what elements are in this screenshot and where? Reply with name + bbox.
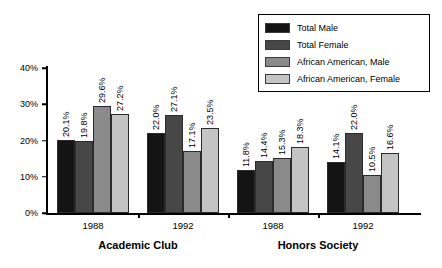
bar: 20.1% [57, 140, 75, 213]
legend-label-total-female: Total Female [297, 40, 349, 50]
bar-value-label: 29.6% [98, 77, 107, 103]
x-axis-group-tick [228, 213, 230, 218]
bar-value-label: 10.5% [368, 146, 377, 172]
legend-swatch-african-american-male [265, 57, 290, 67]
bar-value-label: 19.8% [80, 113, 89, 139]
bar: 17.1% [183, 151, 201, 213]
y-axis-tick-mark [42, 176, 46, 178]
x-axis-group-tick [318, 213, 320, 218]
y-axis-tick-label: 40% [20, 63, 38, 73]
x-axis-group-tick [138, 213, 140, 218]
x-axis-section-label: Honors Society [278, 239, 359, 251]
bar: 10.5% [363, 175, 381, 213]
legend-item-total-female: Total Female [265, 36, 423, 53]
legend-label-total-male: Total Male [297, 23, 338, 33]
bar-value-label: 22.0% [350, 105, 359, 131]
bar: 16.6% [381, 153, 399, 213]
legend-item-total-male: Total Male [265, 19, 423, 36]
y-axis-tick-mark [42, 104, 46, 106]
bar-value-label: 11.8% [242, 142, 251, 167]
bar: 18.3% [291, 147, 309, 213]
chart-screenshot: Total Male Total Female African American… [0, 0, 442, 268]
bar: 29.6% [93, 106, 111, 213]
bar-value-label: 22.0% [152, 105, 161, 131]
bar: 27.2% [111, 114, 129, 213]
y-axis-tick-mark [42, 67, 46, 69]
bar-value-label: 27.2% [116, 86, 125, 112]
y-axis-tick-label: 0% [25, 208, 38, 218]
x-axis-section-label: Academic Club [98, 239, 177, 251]
bar: 22.0% [147, 133, 165, 213]
bar: 15.3% [273, 158, 291, 213]
bar-value-label: 20.1% [62, 112, 71, 138]
x-axis-year-label: 1992 [352, 220, 373, 231]
bar: 22.0% [345, 133, 363, 213]
bar-value-label: 23.5% [206, 99, 215, 125]
bar-value-label: 27.1% [170, 86, 179, 112]
bar: 23.5% [201, 128, 219, 213]
y-axis-tick-mark [42, 140, 46, 142]
bar-value-label: 14.1% [332, 133, 341, 159]
bar: 11.8% [237, 170, 255, 213]
y-axis-tick-label: 30% [20, 99, 38, 109]
legend-swatch-total-male [265, 23, 290, 33]
bar: 19.8% [75, 141, 93, 213]
x-axis-line [46, 213, 421, 215]
bar-value-label: 16.6% [386, 124, 395, 150]
bar-value-label: 14.4% [260, 132, 269, 158]
y-axis-tick-label: 20% [20, 136, 38, 146]
bar-value-label: 18.3% [296, 118, 305, 144]
plot-area: 0%10%20%30%40%20.1%19.8%29.6%27.2%22.0%2… [46, 68, 420, 213]
legend-label-african-american-male: African American, Male [297, 57, 390, 67]
y-axis-tick-label: 10% [20, 172, 38, 182]
x-axis-year-label: 1988 [82, 220, 103, 231]
bar: 27.1% [165, 115, 183, 213]
y-axis-tick-mark [42, 212, 46, 214]
bar-value-label: 15.3% [278, 129, 287, 155]
bar-value-label: 17.1% [188, 122, 197, 148]
x-axis-year-label: 1988 [262, 220, 283, 231]
legend-swatch-total-female [265, 40, 290, 50]
x-axis-year-label: 1992 [172, 220, 193, 231]
bar: 14.1% [327, 162, 345, 213]
bar: 14.4% [255, 161, 273, 213]
